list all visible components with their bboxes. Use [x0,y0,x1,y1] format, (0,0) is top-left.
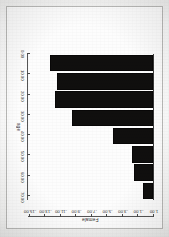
x-axis-tick-mark [27,175,30,176]
bar [57,73,153,90]
y-axis-tick-mark [107,214,108,217]
y-axis-tick-mark [153,214,154,217]
x-axis-tick-mark [27,154,30,155]
y-axis-tick-mark [60,214,61,217]
y-axis-tick-mark [138,214,139,217]
x-axis-tick-mark [27,114,30,115]
bar [143,183,153,200]
plot-area [30,54,154,200]
x-axis-tick-mark [27,94,30,95]
y-axis-tick-mark [122,214,123,217]
bar-chart: Female 1.00-1.00-3.00-5.00-7.00-9.00-11.… [15,15,168,236]
figure-frame: Female 1.00-1.00-3.00-5.00-7.00-9.00-11.… [6,6,163,229]
x-axis-line [27,54,28,200]
bar [113,128,153,145]
y-axis-tick-mark [45,214,46,217]
rotated-figure-container: Female 1.00-1.00-3.00-5.00-7.00-9.00-11.… [15,15,168,236]
bar [50,55,153,72]
y-axis-title: Female [15,217,165,222]
y-axis-tick-mark [29,214,30,217]
y-axis-tick-mark [76,214,77,217]
y-axis-tick-label: -15.00 [19,209,41,214]
y-axis-tick-mark [91,214,92,217]
x-axis-tick-mark [27,134,30,135]
x-axis-tick-mark [27,53,30,54]
value-axis-baseline [153,54,154,200]
bar [132,146,153,163]
x-axis-title: age [16,54,21,200]
x-axis-tick-mark [27,195,30,196]
y-axis-tick-labels: 1.00-1.00-3.00-5.00-7.00-9.00-11.00-13.0… [30,202,154,214]
bar [134,164,153,181]
bar [55,91,153,108]
screenshot-page: Female 1.00-1.00-3.00-5.00-7.00-9.00-11.… [0,0,169,237]
x-axis-tick-mark [27,73,30,74]
bar [72,110,153,127]
